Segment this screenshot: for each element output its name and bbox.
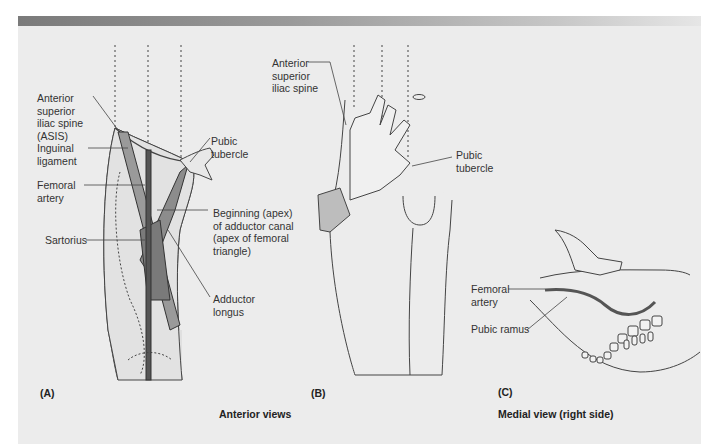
- label-pubic-tubercle-a: Pubic tubercle: [211, 135, 248, 160]
- label-pubic-tubercle-b: Pubic tubercle: [456, 149, 493, 174]
- label-femoral-artery-c: Femoral artery: [471, 283, 510, 308]
- label-sartorius: Sartorius: [45, 234, 87, 247]
- label-asis-b: Anterior superior iliac spine: [272, 57, 318, 95]
- panel-c-medial-drawing: [530, 230, 700, 372]
- caption-medial-view: Medial view (right side): [498, 408, 614, 420]
- panel-a-thigh-drawing: [104, 45, 214, 380]
- panel-letter-c: (C): [498, 386, 513, 398]
- panel-letter-a: (A): [40, 387, 55, 399]
- label-pubic-ramus: Pubic ramus: [471, 323, 529, 336]
- label-inguinal-ligament: Inguinal ligament: [37, 142, 77, 167]
- anatomy-illustration: [0, 0, 709, 444]
- label-femoral-artery-a: Femoral artery: [37, 179, 76, 204]
- panel-letter-b: (B): [311, 387, 326, 399]
- caption-anterior-views: Anterior views: [219, 408, 291, 420]
- label-adductor-longus: Adductor longus: [213, 293, 255, 318]
- label-asis-a: Anterior superior iliac spine (ASIS): [37, 92, 83, 142]
- label-apex-adductor-canal: Beginning (apex) of adductor canal (apex…: [213, 207, 294, 257]
